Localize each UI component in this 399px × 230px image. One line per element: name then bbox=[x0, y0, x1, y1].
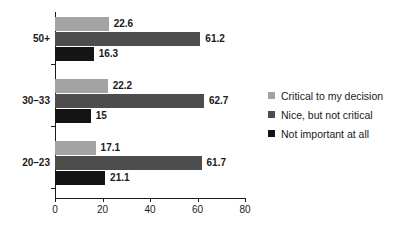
category-label-30-33: 30–33 bbox=[2, 95, 50, 107]
bar-value-label: 22.2 bbox=[108, 79, 132, 93]
bar-row: 15 bbox=[55, 109, 245, 123]
category-label-20-23: 20–23 bbox=[2, 157, 50, 169]
legend-label: Critical to my decision bbox=[281, 90, 383, 102]
category-axis-labels: 50+ 30–33 20–23 bbox=[0, 0, 50, 230]
bar-value-label: 62.7 bbox=[204, 94, 228, 108]
bar[interactable] bbox=[55, 32, 200, 46]
bar-value-label: 61.7 bbox=[202, 156, 226, 170]
bar-row: 17.1 bbox=[55, 141, 245, 155]
x-axis-tick-label: 80 bbox=[225, 204, 265, 216]
bar-group: 17.161.721.1 bbox=[55, 141, 245, 185]
x-axis-tick-label: 20 bbox=[83, 204, 123, 216]
bar[interactable] bbox=[55, 94, 204, 108]
bar[interactable] bbox=[55, 171, 105, 185]
bar-group: 22.262.715 bbox=[55, 79, 245, 123]
legend-label: Not important at all bbox=[281, 128, 369, 140]
bar-value-label: 15 bbox=[91, 109, 107, 123]
bar-value-label: 61.2 bbox=[200, 32, 224, 46]
bar[interactable] bbox=[55, 79, 108, 93]
bar-value-label: 22.6 bbox=[109, 17, 133, 31]
bar-row: 61.2 bbox=[55, 32, 245, 46]
legend-item-critical: Critical to my decision bbox=[268, 86, 396, 105]
bar[interactable] bbox=[55, 156, 202, 170]
legend-item-nice: Nice, but not critical bbox=[268, 105, 396, 124]
bar-group: 22.661.216.3 bbox=[55, 17, 245, 61]
bar[interactable] bbox=[55, 47, 94, 61]
x-axis-tick bbox=[150, 198, 151, 202]
bar-chart: 50+ 30–33 20–23 020406080 22.661.216.322… bbox=[0, 0, 399, 230]
bar[interactable] bbox=[55, 109, 91, 123]
x-axis-tick bbox=[55, 198, 56, 202]
bar-row: 62.7 bbox=[55, 94, 245, 108]
category-label-50-plus: 50+ bbox=[2, 33, 50, 45]
bar-row: 21.1 bbox=[55, 171, 245, 185]
plot-area: 22.661.216.322.262.71517.161.721.1 bbox=[55, 12, 245, 198]
legend-swatch-icon bbox=[268, 92, 275, 99]
legend-swatch-icon bbox=[268, 111, 275, 118]
bar[interactable] bbox=[55, 17, 109, 31]
bar-row: 22.2 bbox=[55, 79, 245, 93]
bar-value-label: 21.1 bbox=[105, 171, 129, 185]
x-axis-tick bbox=[245, 198, 246, 202]
bar[interactable] bbox=[55, 141, 96, 155]
legend-swatch-icon bbox=[268, 130, 275, 137]
bar-row: 16.3 bbox=[55, 47, 245, 61]
bar-value-label: 17.1 bbox=[96, 141, 120, 155]
x-axis-tick-label: 40 bbox=[130, 204, 170, 216]
legend-item-not-important: Not important at all bbox=[268, 124, 396, 143]
bar-row: 22.6 bbox=[55, 17, 245, 31]
x-axis-tick bbox=[198, 198, 199, 202]
x-axis-tick-label: 60 bbox=[178, 204, 218, 216]
bar-value-label: 16.3 bbox=[94, 47, 118, 61]
bar-row: 61.7 bbox=[55, 156, 245, 170]
legend-label: Nice, but not critical bbox=[281, 109, 373, 121]
x-axis-tick-label: 0 bbox=[35, 204, 75, 216]
x-axis-tick bbox=[103, 198, 104, 202]
chart-legend: Critical to my decision Nice, but not cr… bbox=[268, 86, 396, 143]
